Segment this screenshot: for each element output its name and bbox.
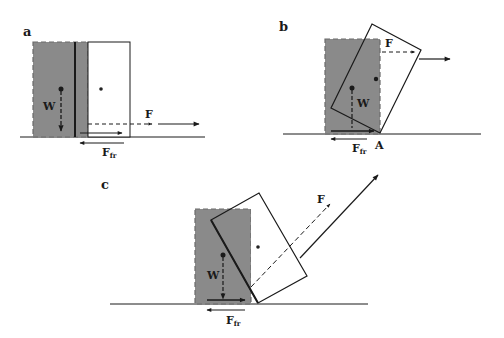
applied-force-arrow	[300, 175, 378, 258]
friction-label: Ffr	[226, 314, 241, 328]
applied-force-label: F	[317, 193, 325, 206]
weight-origin-dot	[59, 87, 64, 92]
weight-label: W	[356, 97, 370, 110]
friction-label: Ffr	[352, 142, 367, 156]
box-tipping-diagram: a W F Ffr b W	[0, 0, 504, 338]
panel-label-c: c	[101, 177, 109, 192]
panel-label-a: a	[23, 24, 32, 39]
applied-force-label: F	[145, 108, 153, 121]
weight-label: W	[42, 100, 56, 113]
center-of-mass-dot	[99, 87, 103, 91]
weight-label: W	[206, 269, 220, 282]
panel-b: b W F A Ffr	[279, 19, 481, 156]
panel-a: a W F Ffr	[20, 24, 205, 160]
panel-c: c W F Ffr	[101, 175, 378, 328]
box-displaced	[88, 42, 130, 137]
weight-origin-dot	[221, 253, 226, 258]
pivot-label: A	[374, 139, 384, 152]
weight-origin-dot	[350, 86, 355, 91]
panel-label-b: b	[279, 19, 288, 34]
applied-force-label: F	[385, 37, 393, 50]
center-of-mass-dot	[374, 77, 378, 81]
friction-label: Ffr	[102, 146, 117, 160]
center-of-mass-dot	[256, 245, 260, 249]
